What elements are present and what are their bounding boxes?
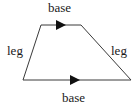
- bottom-base-arrow-icon: [70, 75, 80, 85]
- top-base-arrow-icon: [56, 20, 66, 30]
- top-base-label: base: [48, 0, 71, 15]
- left-leg-label: leg: [7, 43, 23, 58]
- trapezoid-diagram: base leg leg base: [0, 0, 137, 106]
- bottom-base-label: base: [62, 90, 85, 105]
- right-leg-label: leg: [111, 43, 127, 58]
